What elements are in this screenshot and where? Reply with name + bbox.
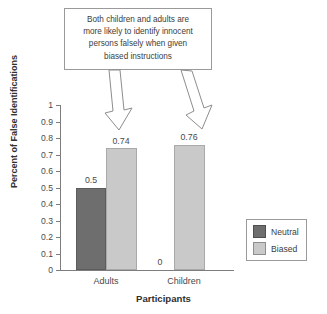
callout-line-4: biased instructions [71,51,205,63]
y-tick-mark [56,204,60,205]
y-tick-mark [56,171,60,172]
x-tick-label-children: Children [167,276,201,286]
value-label-adults-neutral: 0.5 [85,175,97,185]
y-tick-mark [56,270,60,271]
bar-adults-neutral[interactable] [76,188,106,271]
y-tick-mark [56,155,60,156]
y-tick-mark [56,237,60,238]
callout-line-1: Both children and adults are [71,14,205,26]
bar-children-biased[interactable] [174,145,205,270]
y-tick-mark [56,254,60,255]
y-tick-label: 0.1 [41,249,53,259]
chart-plot-area: 1 0.9 0.8 0.7 0.6 0.5 0.4 0.3 0.2 0.1 0 [60,105,234,270]
y-tick-mark [56,138,60,139]
y-axis-line [60,105,61,270]
y-tick-label: 0.9 [41,117,53,127]
legend-label-neutral: Neutral [271,227,299,237]
y-tick-label: 0 [48,265,53,275]
y-tick-mark [56,105,60,106]
y-tick-mark [56,188,60,189]
callout-line-2: more likely to identify innocent [71,26,205,38]
annotation-callout-box: Both children and adults are more likely… [64,8,212,70]
y-tick-mark [56,122,60,123]
chart-legend: Neutral Biased [246,219,307,261]
x-axis-line [60,270,234,271]
y-tick-label: 0.7 [41,150,53,160]
y-axis-title: Percent of False Identifications [9,55,19,188]
value-label-adults-biased: 0.74 [112,136,129,146]
legend-item-biased[interactable]: Biased [253,242,299,255]
callout-line-3: persons falsely when given [71,38,205,50]
y-tick-label: 0.5 [41,183,53,193]
legend-swatch-neutral [253,225,266,238]
value-label-children-neutral: 0 [158,257,163,267]
value-label-children-biased: 0.76 [180,132,197,142]
x-tick-label-adults: Adults [93,276,118,286]
y-tick-label: 0.3 [41,216,53,226]
y-tick-mark [56,221,60,222]
y-tick-label: 1 [48,100,53,110]
y-tick-label: 0.2 [41,232,53,242]
bar-adults-biased[interactable] [106,148,137,270]
y-tick-label: 0.6 [41,166,53,176]
legend-label-biased: Biased [271,244,297,254]
legend-item-neutral[interactable]: Neutral [253,225,299,238]
x-axis-title: Participants [0,293,327,304]
legend-swatch-biased [253,242,266,255]
y-tick-label: 0.8 [41,133,53,143]
y-tick-label: 0.4 [41,199,53,209]
